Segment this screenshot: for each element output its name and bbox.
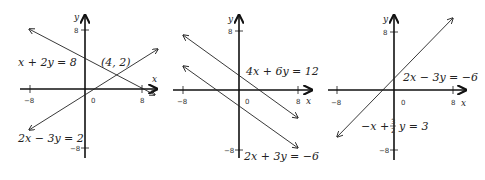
x-axis-label: x — [152, 74, 157, 84]
label-eq2: 2x − 3y = 2 — [17, 132, 84, 145]
tick-8-x: 8 — [296, 98, 300, 106]
tick-zero: 0 — [91, 97, 95, 105]
label-eq2-post: y = 3 — [398, 120, 428, 133]
x-axis-label: x — [461, 98, 466, 108]
tick-8-y: 8 — [228, 28, 232, 36]
tick-8-x: 8 — [451, 99, 455, 107]
label-eq2: 2x + 3y = −6 — [243, 150, 319, 163]
line-2x-plus-3y-eq-neg6 — [183, 66, 298, 148]
tick-8-x: 8 — [140, 97, 144, 105]
label-eq1: 4x + 6y = 12 — [245, 65, 319, 78]
tick-neg8-x: −8 — [177, 98, 187, 106]
x-axis-label: x — [306, 96, 311, 106]
tick-neg8-y: −8 — [224, 147, 234, 155]
tick-8-y: 8 — [383, 29, 387, 37]
chart-canvas: −8 0 8 8 −8 y x x + 2y = 8 (4, 2) 2x − 3… — [0, 0, 485, 180]
fraction-denominator: 2 — [391, 127, 395, 135]
label-eq1: x + 2y = 8 — [18, 56, 77, 69]
tick-zero: 0 — [401, 99, 405, 107]
tick-neg8-x: −8 — [331, 99, 341, 107]
graph-2: −8 0 8 8 −8 y x 4x + 6y = 12 2x + 3y = −… — [173, 14, 319, 163]
label-eq2-pre: −x + — [361, 120, 389, 133]
tick-8-y: 8 — [74, 27, 78, 35]
fraction-numerator: 3 — [391, 118, 395, 126]
tick-neg8-x: −8 — [24, 97, 34, 105]
graph-3: −8 0 8 8 −8 y x 2x − 3y = −6 −x + 3 2 y … — [328, 14, 478, 160]
y-axis-label: y — [227, 14, 234, 24]
tick-neg8-y: −8 — [379, 147, 389, 155]
label-eq2: −x + 3 2 y = 3 — [361, 118, 428, 135]
label-eq1: 2x − 3y = −6 — [402, 71, 478, 84]
y-axis-label: y — [73, 12, 80, 22]
y-axis-label: y — [382, 14, 389, 24]
tick-zero: 0 — [245, 98, 249, 106]
tick-neg8-y: −8 — [70, 145, 80, 153]
label-point: (4, 2) — [101, 56, 131, 69]
graph-1: −8 0 8 8 −8 y x x + 2y = 8 (4, 2) 2x − 3… — [17, 12, 158, 158]
